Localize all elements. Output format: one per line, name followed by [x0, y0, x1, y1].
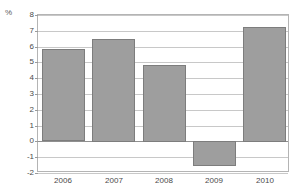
- y-axis-tick-label: 1: [30, 122, 34, 130]
- y-axis-tick-label: 4: [30, 74, 34, 82]
- y-axis-tick-label: 0: [30, 137, 34, 145]
- y-axis-tick-mark: [35, 173, 38, 174]
- x-axis-tick-label: 2009: [205, 176, 223, 185]
- x-axis-tick-label: 2008: [155, 176, 173, 185]
- x-axis-tick-labels: 20062007200820092010: [38, 15, 288, 171]
- plot-area: 876543210-1-2 20062007200820092010: [37, 14, 289, 172]
- x-axis-tick-label: 2006: [54, 176, 72, 185]
- y-axis-tick-label: -1: [27, 153, 34, 161]
- y-axis-tick-label: 3: [30, 90, 34, 98]
- y-axis-tick-label: 7: [30, 27, 34, 35]
- y-axis-unit-label: %: [5, 8, 12, 18]
- x-axis-tick-label: 2010: [256, 176, 274, 185]
- y-axis-tick-label: -2: [27, 169, 34, 177]
- x-axis-tick-label: 2007: [105, 176, 123, 185]
- bar-chart: % 876543210-1-2 20062007200820092010: [0, 0, 298, 196]
- gridline: [38, 173, 288, 174]
- y-axis-tick-label: 8: [30, 11, 34, 19]
- y-axis-tick-label: 6: [30, 43, 34, 51]
- y-axis-tick-label: 5: [30, 58, 34, 66]
- y-axis-tick-label: 2: [30, 106, 34, 114]
